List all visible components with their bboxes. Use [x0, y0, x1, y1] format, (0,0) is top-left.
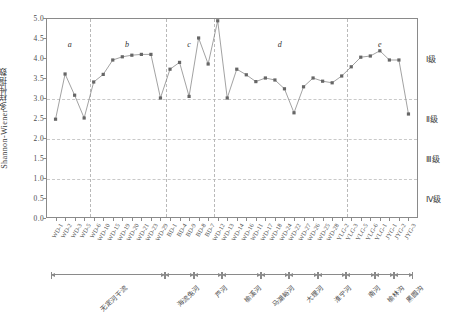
data-point-marker	[207, 62, 210, 65]
data-point-marker	[369, 54, 372, 57]
data-point-marker	[130, 54, 133, 57]
region-name-label: 无定河干流	[97, 282, 129, 314]
region-name-label: 榆林沟	[384, 282, 406, 304]
data-point-marker	[311, 76, 314, 79]
y-tick-label: 4.5	[4, 34, 44, 43]
data-point-marker	[159, 96, 162, 99]
data-point-marker	[292, 111, 295, 114]
y-tick-mark	[43, 78, 46, 79]
region-bracket	[51, 274, 165, 275]
group-letter-e: e	[378, 40, 382, 49]
x-tick-mark	[94, 218, 95, 221]
data-point-marker	[140, 53, 143, 56]
y-tick-mark	[43, 158, 46, 159]
data-point-marker	[397, 58, 400, 61]
bracket-arrow-left-icon	[289, 273, 293, 277]
data-point-marker	[331, 81, 334, 84]
x-tick-mark	[56, 218, 57, 221]
group-letter-b: b	[125, 40, 129, 49]
x-tick-mark	[351, 218, 352, 221]
region-bracket	[394, 274, 413, 275]
x-tick-mark	[399, 218, 400, 221]
region-bracket	[318, 274, 347, 275]
region-bracket	[165, 274, 194, 275]
data-point-marker	[149, 53, 152, 56]
y-axis-ticks: 0.00.51.01.52.02.53.03.54.04.55.0	[0, 0, 44, 329]
data-point-marker	[321, 80, 324, 83]
y-tick-mark	[43, 38, 46, 39]
x-tick-mark	[65, 218, 66, 221]
y-tick-mark	[43, 98, 46, 99]
x-tick-mark	[84, 218, 85, 221]
region-name-label: 海流兔河	[174, 282, 201, 309]
x-tick-mark	[246, 218, 247, 221]
y-tick-mark	[43, 18, 46, 19]
x-tick-mark	[151, 218, 152, 221]
region-bracket	[222, 274, 260, 275]
data-point-marker	[63, 72, 66, 75]
data-point-marker	[245, 73, 248, 76]
x-tick-mark	[275, 218, 276, 221]
region-name-label: 榆溪河	[241, 282, 263, 304]
data-point-marker	[178, 61, 181, 64]
x-tick-mark	[170, 218, 171, 221]
y-tick-mark	[43, 178, 46, 179]
data-point-marker	[350, 65, 353, 68]
x-tick-mark	[408, 218, 409, 221]
data-point-marker	[264, 76, 267, 79]
data-point-marker	[168, 68, 171, 71]
x-tick-mark	[160, 218, 161, 221]
data-point-marker	[73, 94, 76, 97]
x-tick-mark	[265, 218, 266, 221]
y-tick-mark	[43, 138, 46, 139]
data-point-marker	[187, 95, 190, 98]
data-point-marker	[83, 116, 86, 119]
grade-band-label: Ⅱ级	[426, 113, 438, 124]
region-name-label: 大理河	[303, 282, 325, 304]
data-point-marker	[359, 56, 362, 59]
x-tick-mark	[380, 218, 381, 221]
bracket-arrow-left-icon	[165, 273, 169, 277]
grade-band-label: Ⅰ级	[426, 53, 436, 64]
region-bracket	[346, 274, 375, 275]
y-tick-label: 2.5	[4, 114, 44, 123]
y-tick-label: 5.0	[4, 14, 44, 23]
group-letter-c: c	[187, 40, 191, 49]
data-point-marker	[283, 87, 286, 90]
x-tick-mark	[132, 218, 133, 221]
y-tick-label: 0.5	[4, 194, 44, 203]
x-tick-mark	[208, 218, 209, 221]
bracket-arrow-left-icon	[318, 273, 322, 277]
group-letter-d: d	[278, 40, 282, 49]
y-tick-label: 1.5	[4, 154, 44, 163]
x-tick-mark	[75, 218, 76, 221]
data-point-marker	[121, 55, 124, 58]
x-tick-mark	[323, 218, 324, 221]
region-name-label: 南河	[365, 282, 382, 299]
data-point-marker	[302, 85, 305, 88]
region-name-label: 黑圆沟	[403, 282, 425, 304]
y-tick-label: 1.0	[4, 174, 44, 183]
group-letter-a: a	[68, 40, 72, 49]
region-bracket	[194, 274, 223, 275]
data-point-marker	[340, 74, 343, 77]
region-bracket	[261, 274, 290, 275]
data-point-marker	[226, 96, 229, 99]
data-point-marker	[273, 78, 276, 81]
y-tick-label: 0.0	[4, 214, 44, 223]
y-tick-mark	[43, 198, 46, 199]
bracket-arrow-left-icon	[346, 273, 350, 277]
chart-figure: Shannon-Wiener多样性指数 0.00.51.01.52.02.53.…	[0, 0, 466, 329]
x-tick-mark	[256, 218, 257, 221]
grade-band-label: Ⅲ级	[426, 153, 440, 164]
x-tick-mark	[294, 218, 295, 221]
bracket-arrow-left-icon	[51, 273, 55, 277]
bracket-arrow-left-icon	[222, 273, 226, 277]
y-tick-mark	[43, 58, 46, 59]
data-point-marker	[254, 80, 257, 83]
x-tick-mark	[313, 218, 314, 221]
x-tick-mark	[141, 218, 142, 221]
x-tick-mark	[284, 218, 285, 221]
x-tick-mark	[122, 218, 123, 221]
data-series	[46, 18, 418, 218]
